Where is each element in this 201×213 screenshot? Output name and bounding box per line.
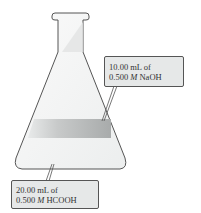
hcooh-label: 20.00 mL of 0.500 M HCOOH — [11, 180, 99, 209]
erlenmeyer-flask — [15, 13, 126, 169]
naoh-layer — [28, 119, 111, 138]
hcooh-label-line2: 0.500 M HCOOH — [16, 195, 94, 205]
naoh-label-line2: 0.500 M NaOH — [109, 72, 179, 82]
hcooh-label-line1: 20.00 mL of — [16, 185, 94, 195]
naoh-label-line1: 10.00 mL of — [109, 62, 179, 72]
naoh-label: 10.00 mL of 0.500 M NaOH — [104, 56, 184, 87]
